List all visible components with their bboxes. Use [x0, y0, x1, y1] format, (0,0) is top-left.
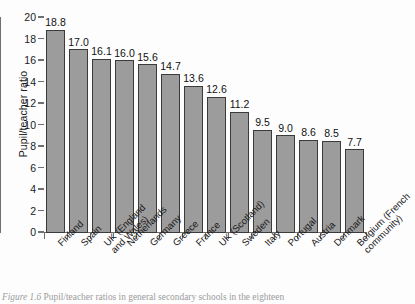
bar-value-label: 12.6: [206, 83, 226, 95]
bar: [115, 60, 133, 233]
y-tick-mark: [38, 59, 44, 60]
bar: [207, 97, 225, 233]
figure-caption-text: Pupil/teacher ratios in general secondar…: [44, 292, 285, 302]
bar-value-label: 13.6: [183, 72, 203, 84]
figure-caption: Figure 1.6 Pupil/teacher ratios in gener…: [2, 292, 376, 302]
y-tick-label: 2: [0, 205, 36, 217]
y-tick-mark: [38, 102, 44, 103]
y-tick-label: 18: [0, 33, 36, 45]
y-tick-label: 20: [0, 11, 36, 23]
y-tick-mark: [38, 210, 44, 211]
y-tick-mark: [38, 188, 44, 189]
bar-value-label: 17.0: [68, 36, 88, 48]
y-tick-label: 4: [0, 183, 36, 195]
bar-value-label: 16.0: [114, 47, 134, 59]
bar-value-label: 15.6: [137, 51, 157, 63]
y-tick-label: 14: [0, 76, 36, 88]
y-tick-mark: [38, 38, 44, 39]
y-tick-mark: [38, 167, 44, 168]
y-tick-label: 0: [0, 226, 36, 238]
bar: [46, 30, 64, 233]
x-tick-mark: [44, 233, 45, 239]
y-tick-label: 6: [0, 162, 36, 174]
figure-number: Figure 1.6: [2, 292, 41, 302]
bar-value-label: 8.6: [301, 126, 316, 138]
y-tick-label: 12: [0, 97, 36, 109]
bar-value-label: 14.7: [160, 60, 180, 72]
bar: [322, 141, 340, 233]
y-tick-mark: [38, 145, 44, 146]
y-tick-label: 10: [0, 119, 36, 131]
y-tick-mark: [38, 81, 44, 82]
bar-value-label: 18.8: [45, 16, 65, 28]
bar-value-label: 7.7: [347, 136, 362, 148]
bar: [92, 59, 110, 233]
bar: [184, 86, 202, 233]
bar-value-label: 9.5: [255, 116, 270, 128]
bar: [276, 135, 294, 232]
bar-value-label: 8.5: [324, 127, 339, 139]
bar-value-label: 11.2: [230, 98, 250, 110]
y-tick-label: 8: [0, 140, 36, 152]
bar-value-label: 16.1: [91, 45, 111, 57]
y-tick-label: 16: [0, 54, 36, 66]
bar-value-label: 9.0: [278, 122, 293, 134]
y-tick-mark: [38, 124, 44, 125]
y-tick-mark: [38, 16, 44, 17]
bar: [69, 49, 87, 232]
